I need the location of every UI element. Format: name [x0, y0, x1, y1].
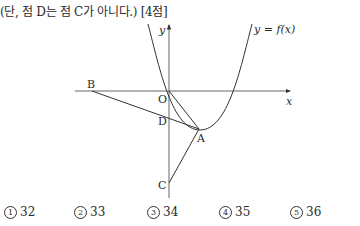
- point-label-O: O: [158, 94, 167, 105]
- segment-AC: [169, 129, 199, 183]
- choice-2[interactable]: 233: [74, 205, 105, 219]
- choice-1[interactable]: 132: [4, 205, 35, 219]
- segment-BA: [92, 91, 199, 129]
- answer-choices: 132 233 334 435 536: [0, 205, 360, 221]
- x-axis-label: x: [286, 96, 292, 107]
- curve-label: y = f(x): [254, 24, 295, 35]
- point-label-D: D: [158, 116, 167, 127]
- point-label-A: A: [197, 133, 205, 144]
- y-axis-label: y: [159, 25, 165, 36]
- choice-value-5: 36: [306, 205, 321, 219]
- choice-5[interactable]: 536: [290, 205, 321, 219]
- choice-number-5: 5: [290, 206, 303, 219]
- choice-number-4: 4: [219, 206, 232, 219]
- choice-number-2: 2: [74, 206, 87, 219]
- coordinate-graph: [0, 0, 360, 226]
- choice-value-4: 35: [235, 205, 250, 219]
- point-label-B: B: [87, 79, 95, 90]
- choice-value-1: 32: [20, 205, 35, 219]
- point-label-C: C: [158, 180, 166, 191]
- choice-number-1: 1: [4, 206, 17, 219]
- choice-value-2: 33: [90, 205, 105, 219]
- choice-value-3: 34: [163, 205, 178, 219]
- choice-number-3: 3: [147, 206, 160, 219]
- choice-4[interactable]: 435: [219, 205, 250, 219]
- choice-3[interactable]: 334: [147, 205, 178, 219]
